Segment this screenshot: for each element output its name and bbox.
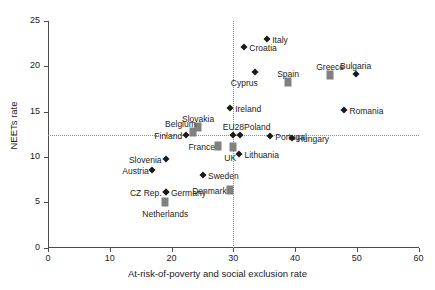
x-tick: [295, 248, 296, 252]
data-label-sweden: Sweden: [208, 171, 239, 181]
data-label-denmark: Denmark: [192, 186, 226, 196]
y-tick: [44, 157, 48, 158]
data-point-france: [215, 142, 222, 151]
x-axis-title: At-risk-of-poverty and social exclusion …: [0, 268, 435, 279]
data-point-uk: [230, 142, 237, 151]
y-tick-label: 15: [20, 106, 40, 116]
y-tick-label: 25: [20, 15, 40, 25]
x-tick-label: 40: [280, 253, 310, 263]
data-point-portugal: [267, 133, 274, 140]
x-tick: [110, 248, 111, 252]
y-tick: [44, 112, 48, 113]
data-label-uk: UK: [224, 153, 236, 163]
data-label-finland: Finland: [154, 131, 182, 141]
data-point-bulgaria: [352, 70, 359, 77]
x-tick-label: 20: [157, 253, 187, 263]
data-point-slovenia: [162, 155, 169, 162]
data-point-cyprus: [251, 68, 258, 75]
data-label-spain: Spain: [277, 69, 299, 79]
y-tick-label: 5: [20, 196, 40, 206]
y-tick: [44, 21, 48, 22]
data-label-bulgaria: Bulgaria: [340, 61, 371, 71]
data-point-poland: [236, 132, 243, 139]
data-point-netherlands: [162, 198, 169, 207]
data-label-cyprus: Cyprus: [231, 78, 258, 88]
data-label-eu28: EU28: [223, 122, 244, 132]
y-tick: [44, 248, 48, 249]
y-tick: [44, 66, 48, 67]
data-point-sweden: [199, 171, 206, 178]
data-label-belgium: Belgium: [165, 119, 196, 129]
y-tick-label: 0: [20, 242, 40, 252]
data-label-romania: Romania: [349, 106, 383, 116]
data-label-cz-rep: CZ Rep.: [130, 188, 162, 198]
data-point-denmark: [227, 185, 234, 194]
data-point-lithuania: [236, 151, 243, 158]
y-tick: [44, 202, 48, 203]
x-tick-label: 30: [218, 253, 248, 263]
data-label-france: France: [188, 142, 214, 152]
data-point-austria: [149, 166, 156, 173]
x-tick: [357, 248, 358, 252]
data-point-italy: [264, 36, 271, 43]
x-tick-label: 0: [33, 253, 63, 263]
data-label-ireland: Ireland: [235, 104, 261, 114]
x-tick-label: 60: [404, 253, 434, 263]
data-point-romania: [341, 106, 348, 113]
x-tick: [172, 248, 173, 252]
x-tick: [419, 248, 420, 252]
x-tick-label: 50: [342, 253, 372, 263]
x-tick: [48, 248, 49, 252]
y-tick-label: 20: [20, 60, 40, 70]
data-label-lithuania: Lithuania: [244, 150, 279, 160]
data-label-austria: Austria: [122, 166, 148, 176]
y-tick-label: 10: [20, 151, 40, 161]
scatter-chart: 0102030405060 0510152025 ItalyCroatiaCyp…: [0, 0, 435, 290]
data-point-cz-rep: [162, 189, 169, 196]
data-label-croatia: Croatia: [249, 43, 276, 53]
data-label-slovenia: Slovenia: [129, 155, 162, 165]
data-label-hungary: Hungary: [297, 134, 329, 144]
y-axis-title: NEETs rate: [8, 76, 19, 176]
data-point-croatia: [241, 44, 248, 51]
data-label-netherlands: Netherlands: [142, 209, 188, 219]
x-tick-label: 10: [95, 253, 125, 263]
data-label-poland: Poland: [244, 122, 270, 132]
x-tick: [233, 248, 234, 252]
